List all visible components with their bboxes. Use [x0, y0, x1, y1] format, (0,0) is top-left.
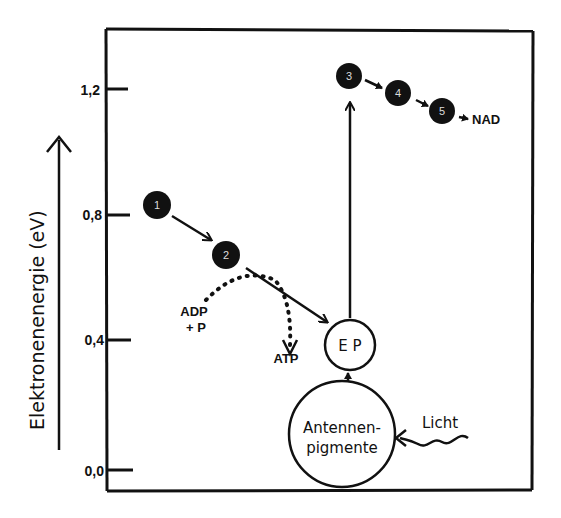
svg-text:3: 3 [346, 70, 352, 82]
plus-p-label: + P [186, 320, 206, 335]
carrier-4: 4 [385, 80, 411, 106]
atp-label: ATP [273, 351, 298, 366]
arrow-4-to-5 [416, 100, 428, 106]
carrier-2: 2 [212, 241, 240, 269]
carrier-5: 5 [429, 98, 455, 124]
svg-text:1: 1 [154, 199, 160, 211]
carrier-1: 1 [143, 191, 171, 219]
arrow-2-to-ep [246, 268, 327, 322]
phosphorylation-arc [206, 276, 290, 346]
light-label: Licht [422, 414, 458, 432]
svg-text:4: 4 [395, 87, 401, 99]
tick-label: 0,4 [85, 332, 105, 348]
svg-text:Antennen-: Antennen- [303, 419, 381, 437]
electron-energy-diagram: 1,2 0,8 0,4 0,0 Elektronenenergie (eV) 1… [0, 0, 561, 518]
adp-label: ADP [180, 304, 208, 319]
y-axis-label: Elektronenenergie (eV) [26, 210, 48, 430]
svg-text:5: 5 [439, 105, 445, 117]
y-axis-label-group: Elektronenenergie (eV) [26, 137, 71, 450]
carrier-3: 3 [336, 63, 362, 89]
light-wave-icon [400, 436, 468, 446]
arrow-1-to-2 [172, 216, 211, 240]
tick-label: 1,2 [81, 82, 101, 98]
arrow-3-to-4 [365, 80, 382, 88]
tick-label: 0,8 [83, 207, 103, 223]
nad-label: NAD [472, 112, 500, 127]
tick-label: 0,0 [85, 463, 105, 479]
svg-text:pigmente: pigmente [306, 439, 378, 457]
antenna-pigments: Antennen- pigmente [289, 381, 395, 487]
svg-text:E P: E P [338, 337, 361, 355]
arrow-5-to-nad [459, 117, 468, 119]
svg-text:2: 2 [223, 249, 229, 261]
reaction-center-ep: E P [325, 320, 375, 370]
